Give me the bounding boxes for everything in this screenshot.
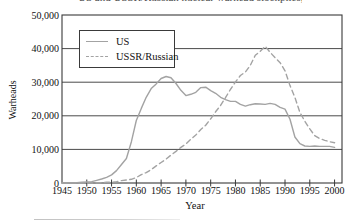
y-tick-label-0: 0 (13, 178, 59, 189)
y-axis-title: Warheads (7, 60, 19, 140)
y-tick-label-30000: 30,000 (13, 77, 59, 88)
y-tick-label-20000: 20,000 (13, 110, 59, 121)
series-line-us (62, 77, 335, 184)
us-solid-line-swatch (86, 41, 108, 42)
legend-label-us: US (116, 36, 129, 47)
y-tick-label-10000: 10,000 (13, 144, 59, 155)
legend-item-ussr: USSR/Russian (86, 51, 170, 62)
legend-item-us: US (86, 36, 170, 47)
ussr-dashed-line-swatch (86, 56, 108, 57)
x-axis-title: Year (165, 200, 225, 211)
y-tick-label-50000: 50,000 (13, 10, 59, 21)
figure: US and USSR/Russian nuclear warhead stoc… (0, 0, 353, 223)
cropped-element-edge (34, 219, 180, 220)
x-tick-label-2000: 2000 (318, 185, 352, 196)
legend-label-ussr: USSR/Russian (116, 51, 178, 62)
legend: US USSR/Russian (79, 30, 175, 68)
y-tick-label-40000: 40,000 (13, 43, 59, 54)
